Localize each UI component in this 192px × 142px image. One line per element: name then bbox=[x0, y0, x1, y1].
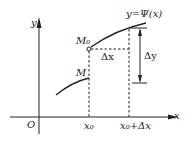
point-m-label: M bbox=[76, 68, 86, 78]
dy-arrow-down-icon bbox=[138, 75, 142, 83]
lower-curve bbox=[56, 78, 89, 95]
tick-x0-dx-label: x₀+Δx bbox=[120, 121, 151, 131]
upper-curve bbox=[91, 23, 146, 47]
y-axis-arrow-icon bbox=[37, 17, 42, 28]
point-m0-label: M₀ bbox=[76, 36, 90, 46]
dy-arrow-up-icon bbox=[138, 28, 142, 36]
x-axis-label: x bbox=[174, 111, 180, 121]
function-label: y=Ψ(x) bbox=[126, 9, 162, 19]
m0-open-point bbox=[87, 47, 91, 51]
tick-x0-label: x₀ bbox=[84, 121, 94, 131]
y-axis-label: y bbox=[31, 18, 37, 28]
origin-label: O bbox=[27, 120, 35, 130]
delta-x-label: Δx bbox=[101, 52, 114, 62]
derivative-diagram: y=Ψ(x) y x O M₀ M Δx Δy x₀ x₀+Δx bbox=[0, 0, 192, 142]
delta-y-label: Δy bbox=[144, 51, 157, 61]
